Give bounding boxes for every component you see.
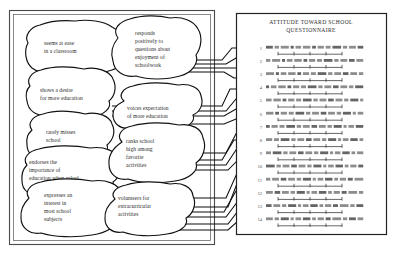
item-text-glyphs bbox=[305, 151, 312, 154]
item-text-glyphs bbox=[272, 59, 280, 62]
item-text-glyphs bbox=[283, 99, 287, 102]
item-text-glyphs bbox=[281, 112, 287, 115]
item-text-glyphs bbox=[343, 138, 349, 141]
item-text-glyphs bbox=[343, 112, 351, 115]
item-text-glyphs bbox=[340, 204, 349, 207]
item-text-glyphs bbox=[318, 46, 324, 49]
item-text-glyphs bbox=[282, 191, 289, 194]
item-text-glyphs bbox=[281, 217, 289, 220]
item-text-glyphs bbox=[343, 72, 349, 75]
item-text-glyphs bbox=[313, 138, 320, 141]
item-text-glyphs bbox=[358, 165, 363, 168]
item-text-glyphs bbox=[283, 165, 290, 168]
item-text-glyphs bbox=[291, 217, 294, 220]
item-text-glyphs bbox=[272, 178, 279, 181]
item-text-glyphs bbox=[345, 165, 349, 168]
item-text-glyphs bbox=[333, 85, 339, 88]
item-text-glyphs bbox=[266, 138, 272, 141]
item-text-glyphs bbox=[291, 138, 295, 141]
attitude-toward-school-figure: seems at ease in a classroom responds po… bbox=[0, 0, 397, 264]
item-text-glyphs bbox=[289, 151, 296, 154]
item-text-glyphs bbox=[282, 59, 285, 62]
item-text-glyphs bbox=[303, 204, 309, 207]
item-text-glyphs bbox=[288, 178, 295, 181]
item-text-glyphs bbox=[273, 99, 280, 102]
item-text-glyphs bbox=[350, 204, 354, 207]
item-text-glyphs bbox=[291, 165, 297, 168]
item-text-glyphs bbox=[281, 72, 287, 75]
item-text-glyphs bbox=[303, 217, 310, 220]
item-text-glyphs bbox=[297, 178, 301, 181]
item-text-glyphs bbox=[328, 99, 334, 102]
item-text-glyphs bbox=[273, 204, 280, 207]
item-text-glyphs bbox=[340, 178, 346, 181]
item-text-glyphs bbox=[297, 72, 301, 75]
item-text-glyphs bbox=[266, 46, 273, 49]
item-text-glyphs bbox=[304, 59, 308, 62]
blob-shows-desire: shows a desire for more education bbox=[26, 67, 115, 119]
item-text-glyphs bbox=[291, 46, 294, 49]
item-text-glyphs bbox=[281, 46, 289, 49]
item-text-glyphs bbox=[312, 217, 316, 220]
item-text-glyphs bbox=[350, 99, 358, 102]
item-text-glyphs bbox=[313, 99, 317, 102]
item-text-glyphs bbox=[326, 46, 331, 49]
item-text-glyphs bbox=[318, 72, 327, 75]
item-text-glyphs bbox=[286, 125, 295, 128]
item-text-glyphs bbox=[318, 217, 324, 220]
item-text-glyphs bbox=[266, 217, 273, 220]
item-text-glyphs bbox=[323, 165, 326, 168]
item-text-glyphs bbox=[296, 112, 305, 115]
item-text-glyphs bbox=[289, 112, 294, 115]
item-text-glyphs bbox=[348, 178, 353, 181]
item-text-glyphs bbox=[275, 217, 279, 220]
item-text-glyphs bbox=[307, 191, 310, 194]
item-text-glyphs bbox=[355, 178, 364, 181]
item-text-glyphs bbox=[273, 151, 282, 154]
item-text-glyphs bbox=[356, 59, 363, 62]
item-text-glyphs bbox=[293, 85, 299, 88]
item-text-glyphs bbox=[282, 204, 286, 207]
item-text-glyphs bbox=[266, 59, 270, 62]
item-text-glyphs bbox=[271, 85, 277, 88]
item-text-glyphs bbox=[281, 178, 287, 181]
item-text-glyphs bbox=[306, 112, 310, 115]
item-text-glyphs bbox=[359, 191, 363, 194]
item-text-glyphs bbox=[313, 178, 316, 181]
item-text-glyphs bbox=[318, 178, 324, 181]
questionnaire-title-line-2: QUESTIONNAIRE bbox=[286, 27, 336, 33]
item-text-glyphs bbox=[344, 125, 347, 128]
item-text-glyphs bbox=[275, 46, 279, 49]
item-text-glyphs bbox=[272, 125, 278, 128]
item-text-glyphs bbox=[301, 85, 306, 88]
item-number: 10 bbox=[257, 164, 262, 169]
item-text-glyphs bbox=[298, 204, 301, 207]
item-text-glyphs bbox=[266, 178, 270, 181]
item-text-glyphs bbox=[312, 46, 316, 49]
item-text-glyphs bbox=[360, 138, 364, 141]
item-text-glyphs bbox=[342, 151, 349, 154]
item-text-glyphs bbox=[307, 165, 311, 168]
item-text-glyphs bbox=[328, 125, 332, 128]
item-text-glyphs bbox=[326, 217, 331, 220]
item-text-glyphs bbox=[328, 112, 335, 115]
item-text-glyphs bbox=[360, 99, 363, 102]
item-text-glyphs bbox=[266, 125, 270, 128]
item-text-glyphs bbox=[320, 151, 328, 154]
item-text-glyphs bbox=[321, 112, 327, 115]
item-text-glyphs bbox=[338, 138, 341, 141]
item-text-glyphs bbox=[303, 99, 312, 102]
item-text-glyphs bbox=[343, 46, 347, 49]
item-text-glyphs bbox=[325, 178, 332, 181]
item-text-glyphs bbox=[281, 138, 290, 141]
item-text-glyphs bbox=[349, 59, 355, 62]
item-text-glyphs bbox=[309, 59, 315, 62]
item-text-glyphs bbox=[334, 72, 341, 75]
item-text-glyphs bbox=[297, 191, 305, 194]
item-text-glyphs bbox=[303, 46, 310, 49]
item-text-glyphs bbox=[313, 165, 321, 168]
item-text-glyphs bbox=[340, 85, 347, 88]
item-text-glyphs bbox=[356, 204, 363, 207]
item-text-glyphs bbox=[357, 151, 363, 154]
item-text-glyphs bbox=[358, 112, 364, 115]
